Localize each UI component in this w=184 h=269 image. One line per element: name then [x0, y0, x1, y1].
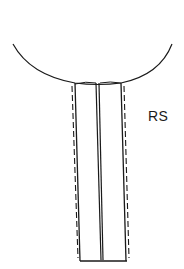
right-solid-wall — [121, 83, 126, 261]
diagram-canvas — [0, 0, 184, 269]
right-top-cap — [100, 82, 121, 83]
center-divider-left — [96, 83, 101, 260]
center-divider-right — [99, 83, 103, 260]
rs-label: RS — [148, 108, 168, 124]
rounded-top-surface — [13, 44, 172, 85]
